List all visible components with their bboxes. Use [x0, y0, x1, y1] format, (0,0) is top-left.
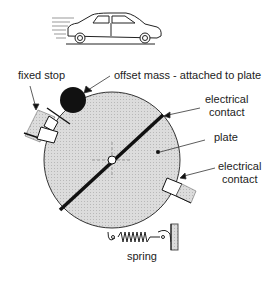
label-spring: spring [127, 250, 157, 263]
label-fixed-stop: fixed stop [18, 69, 65, 82]
label-line: electrical [218, 160, 261, 173]
car-icon [52, 13, 161, 44]
label-line: contact [205, 106, 248, 119]
label-electrical-contact-top: electrical contact [205, 93, 248, 119]
label-electrical-contact-bottom: electrical contact [218, 160, 261, 186]
label-offset-mass: offset mass - attached to plate [114, 69, 261, 82]
label-line: contact [218, 173, 261, 186]
label-plate: plate [214, 131, 238, 144]
offset-mass [60, 87, 86, 113]
label-line: electrical [205, 93, 248, 106]
crash-sensor-diagram: fixed stop offset mass - attached to pla… [0, 0, 271, 283]
